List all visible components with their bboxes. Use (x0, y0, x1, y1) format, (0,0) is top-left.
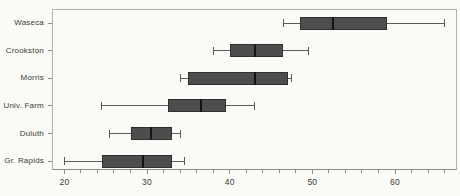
plot-area (52, 9, 457, 170)
x-major-tick (147, 170, 148, 174)
x-minor-tick (113, 170, 114, 173)
whisker-cap (444, 19, 445, 27)
x-tick-label: 40 (218, 177, 242, 187)
x-minor-tick (97, 170, 98, 173)
y-axis-label: Crookston (0, 46, 44, 56)
whisker-cap (109, 130, 110, 138)
x-minor-tick (246, 170, 247, 173)
x-major-tick (312, 170, 313, 174)
x-minor-tick (428, 170, 429, 173)
box (168, 99, 226, 112)
whisker-cap (184, 157, 185, 165)
x-tick-label: 30 (135, 177, 159, 187)
x-minor-tick (378, 170, 379, 173)
y-tick (48, 78, 52, 79)
whisker-cap (101, 102, 102, 110)
x-minor-tick (130, 170, 131, 173)
whisker-cap (283, 19, 284, 27)
median-line (150, 127, 152, 140)
x-minor-tick (213, 170, 214, 173)
median-line (254, 44, 256, 57)
y-axis-label: Waseca (0, 18, 44, 28)
whisker-cap (291, 74, 292, 82)
median-line (332, 17, 334, 30)
x-minor-tick (180, 170, 181, 173)
x-minor-tick (163, 170, 164, 173)
whisker-cap (254, 102, 255, 110)
x-minor-tick (444, 170, 445, 173)
x-tick-label: 20 (52, 177, 76, 187)
x-major-tick (229, 170, 230, 174)
y-axis-label: Gr. Rapids (0, 156, 44, 166)
x-minor-tick (279, 170, 280, 173)
box (300, 17, 387, 30)
x-minor-tick (196, 170, 197, 173)
x-major-tick (395, 170, 396, 174)
box (230, 44, 284, 57)
whisker-cap (64, 157, 65, 165)
box (102, 155, 172, 168)
x-minor-tick (411, 170, 412, 173)
y-axis-label: Duluth (0, 129, 44, 139)
y-tick (48, 105, 52, 106)
median-line (142, 155, 144, 168)
y-tick (48, 50, 52, 51)
x-minor-tick (328, 170, 329, 173)
median-line (200, 99, 202, 112)
boxplot-figure: WasecaCrookstonMorrisUniv. FarmDuluthGr.… (0, 0, 460, 196)
x-minor-tick (295, 170, 296, 173)
x-tick-label: 60 (383, 177, 407, 187)
whisker-cap (180, 130, 181, 138)
y-axis-label: Morris (0, 73, 44, 83)
x-minor-tick (345, 170, 346, 173)
x-minor-tick (361, 170, 362, 173)
x-minor-tick (80, 170, 81, 173)
whisker-cap (308, 47, 309, 55)
x-major-tick (64, 170, 65, 174)
y-tick (48, 133, 52, 134)
whisker-cap (180, 74, 181, 82)
box (188, 72, 287, 85)
median-line (254, 72, 256, 85)
whisker-cap (213, 47, 214, 55)
y-tick (48, 23, 52, 24)
y-tick (48, 161, 52, 162)
x-tick-label: 50 (300, 177, 324, 187)
x-minor-tick (262, 170, 263, 173)
y-axis-label: Univ. Farm (0, 101, 44, 111)
